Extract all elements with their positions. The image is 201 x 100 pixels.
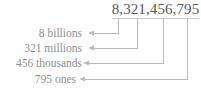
arrow-head-thousands bbox=[83, 60, 89, 65]
connector-line-billions bbox=[93, 18, 118, 33]
place-value-diagram: 8,321,456,795 8 billions 321 millions 45… bbox=[0, 0, 201, 100]
connector-lines-group bbox=[0, 0, 201, 100]
arrow-head-billions bbox=[88, 30, 94, 35]
arrow-head-millions bbox=[88, 45, 94, 50]
connector-line-thousands bbox=[88, 18, 163, 63]
arrow-head-ones bbox=[79, 76, 85, 81]
